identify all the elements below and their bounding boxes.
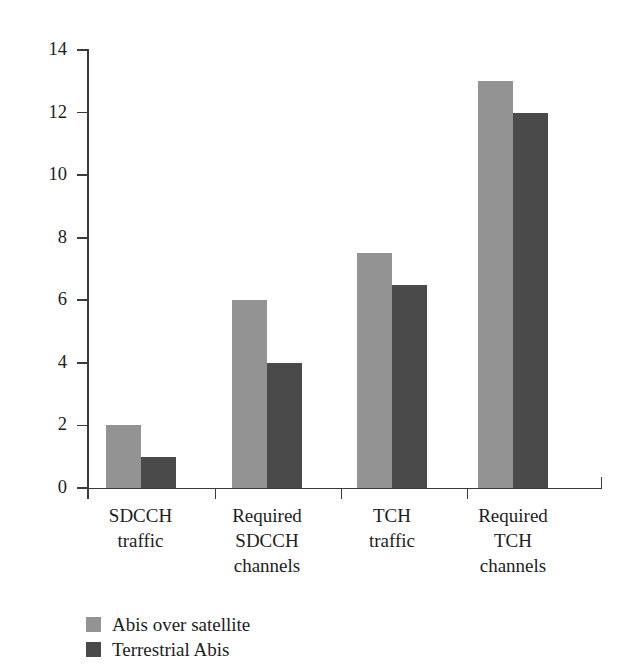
x-axis-category-label: RequiredTCHchannels: [438, 503, 588, 578]
x-axis-tick: [87, 488, 89, 499]
bar: [392, 285, 427, 488]
bar: [478, 81, 513, 488]
y-axis-tick-label: 0: [21, 478, 67, 497]
y-axis-tick-label: 8: [21, 228, 67, 247]
y-axis-tick: [77, 299, 88, 301]
y-axis-tick: [77, 174, 88, 176]
x-axis-category-line: TCH: [438, 528, 588, 553]
plot-area: [88, 50, 602, 488]
y-axis-tick: [77, 237, 88, 239]
chart-legend: Abis over satelliteTerrestrial Abis: [86, 612, 250, 662]
legend-item: Abis over satellite: [86, 612, 250, 637]
legend-item: Terrestrial Abis: [86, 637, 250, 662]
bar: [106, 425, 141, 488]
y-axis-tick-label: 10: [21, 165, 67, 184]
legend-swatch-icon: [86, 642, 101, 657]
x-axis-tick: [467, 488, 469, 499]
x-axis-tick: [341, 488, 343, 499]
bar: [513, 113, 548, 488]
bar-chart-figure: 02468101214 SDCCHtrafficRequiredSDCCHcha…: [0, 0, 632, 668]
x-axis-category-line: Required: [438, 503, 588, 528]
y-axis-tick-label: 6: [21, 290, 67, 309]
legend-label: Abis over satellite: [112, 615, 250, 634]
y-axis-tick: [77, 112, 88, 114]
y-axis-tick: [77, 425, 88, 427]
bar: [357, 253, 392, 488]
legend-swatch-icon: [86, 617, 101, 632]
y-axis-tick-label: 12: [21, 103, 67, 122]
bar: [232, 300, 267, 488]
y-axis-tick: [77, 362, 88, 364]
bar: [141, 457, 176, 488]
x-axis-category-line: channels: [438, 553, 588, 578]
x-axis-tick: [215, 488, 217, 499]
y-axis-tick-label: 4: [21, 353, 67, 372]
y-axis-tick: [77, 49, 88, 51]
legend-label: Terrestrial Abis: [112, 640, 229, 659]
y-axis-tick-label: 2: [21, 415, 67, 434]
x-axis-category-line: channels: [192, 553, 342, 578]
y-axis-tick-label: 14: [21, 40, 67, 59]
bar: [267, 363, 302, 488]
